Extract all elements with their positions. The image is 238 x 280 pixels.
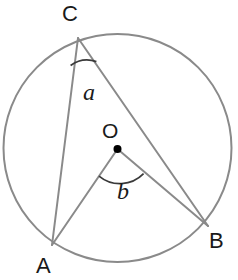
vertex-label-c: C: [62, 3, 78, 25]
circle-geometry-diagram: C A B O a b: [0, 0, 238, 280]
center-label-o: O: [102, 120, 118, 141]
center-point-dot: [114, 145, 122, 153]
vertex-label-b: B: [209, 230, 224, 252]
vertex-label-a: A: [36, 255, 51, 277]
chord-cb-line: [78, 38, 208, 226]
geometry-canvas: [0, 0, 238, 280]
angle-label-b: b: [117, 179, 129, 203]
angle-label-a: a: [83, 80, 95, 104]
